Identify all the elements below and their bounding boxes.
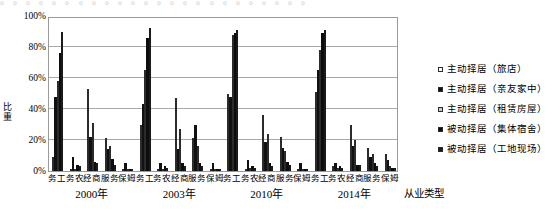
legend-label: 主动择居（旅店） (447, 64, 527, 75)
bar (341, 168, 343, 171)
bar (184, 166, 186, 171)
x-tick-label: 经商 (171, 173, 189, 184)
legend-label: 主动择居（亲友家中） (447, 84, 547, 95)
x-tick-label: 务工 (223, 173, 241, 184)
bar (166, 168, 168, 171)
filled-square-icon (438, 147, 443, 152)
plot-area (48, 17, 398, 172)
x-axis-label: 从业类型 (404, 187, 444, 200)
y-tick-label: 0% (6, 167, 46, 177)
y-tick-label: 20% (6, 136, 46, 146)
legend-item[interactable]: 主动择居（旅店） (438, 59, 550, 79)
x-tick-label: 经商 (346, 173, 364, 184)
bar (376, 166, 378, 171)
y-tick-label: 60% (6, 74, 46, 84)
legend-item[interactable]: 被动择居（集体宿舍） (438, 119, 550, 139)
x-tick-label: 服务 (363, 173, 381, 184)
filled-square-icon (438, 127, 443, 132)
bar (271, 166, 273, 171)
gridline (49, 139, 397, 140)
x-tick-label: 经商 (258, 173, 276, 184)
x-tick-label: 经商 (83, 173, 101, 184)
y-tick-label: 80% (6, 43, 46, 53)
bar (306, 169, 308, 171)
bar (96, 163, 98, 171)
x-tick-label: 务农 (241, 173, 259, 184)
x-tick-label: 务工 (311, 173, 329, 184)
legend-label: 主动择居（租赁房屋） (447, 104, 547, 115)
x-tick-label: 保姆 (206, 173, 224, 184)
x-tick-label: 务农 (328, 173, 346, 184)
hollow-square-icon (438, 67, 443, 72)
x-axis-group-labels: 2000年2003年2010年2014年 (48, 187, 398, 203)
x-tick-label: 服务 (276, 173, 294, 184)
chart-legend: 主动择居（旅店）主动择居（亲友家中）主动择居（租赁房屋）被动择居（集体宿舍）被动… (438, 59, 550, 159)
bar (324, 30, 326, 171)
gridline (49, 108, 397, 109)
bar (79, 166, 81, 171)
legend-label: 被动择居（集体宿舍） (447, 124, 547, 135)
bar (359, 165, 361, 171)
bar (236, 30, 238, 171)
x-tick-label: 务农 (66, 173, 84, 184)
bar (219, 169, 221, 171)
x-tick-label: 服务 (101, 173, 119, 184)
x-tick-label: 务工 (48, 173, 66, 184)
x-group-label: 2014年 (311, 187, 399, 201)
x-tick-label: 保姆 (381, 173, 399, 184)
bar (61, 32, 63, 172)
bar (289, 165, 291, 171)
bar (254, 168, 256, 171)
bar (131, 169, 133, 171)
y-tick-label: 100% (6, 12, 46, 22)
x-tick-label: 保姆 (118, 173, 136, 184)
x-tick-label: 务工 (136, 173, 154, 184)
x-tick-label: 服务 (188, 173, 206, 184)
x-tick-label: 保姆 (293, 173, 311, 184)
gridline (49, 46, 397, 47)
x-tick-label: 务农 (153, 173, 171, 184)
bar (114, 165, 116, 171)
legend-item[interactable]: 主动择居（亲友家中） (438, 79, 550, 99)
filled-square-icon (438, 87, 443, 92)
bar (394, 168, 396, 171)
bar-chart: 100%80%60%40%20%0% 比重 务工务农经商服务保姆务工务农经商服务… (0, 7, 552, 218)
y-axis-label: 比重 (2, 102, 13, 122)
legend-label: 被动择居（工地现场） (447, 144, 547, 155)
legend-item[interactable]: 主动择居（租赁房屋） (438, 99, 550, 119)
x-axis-category-labels: 务工务农经商服务保姆务工务农经商服务保姆务工务农经商服务保姆务工务农经商服务保姆 (48, 173, 398, 186)
x-group-label: 2010年 (223, 187, 311, 201)
page-bleed-text: 。 。 。 。 。 。 。 。 。 。 。 。 。 。 。 。 。 。 。 。 … (0, 0, 552, 7)
gridline (49, 77, 397, 78)
x-group-label: 2000年 (48, 187, 136, 201)
x-group-label: 2003年 (136, 187, 224, 201)
bar (149, 28, 151, 171)
legend-item[interactable]: 被动择居（工地现场） (438, 139, 550, 159)
gray-square-icon (438, 107, 443, 112)
bar (201, 166, 203, 171)
